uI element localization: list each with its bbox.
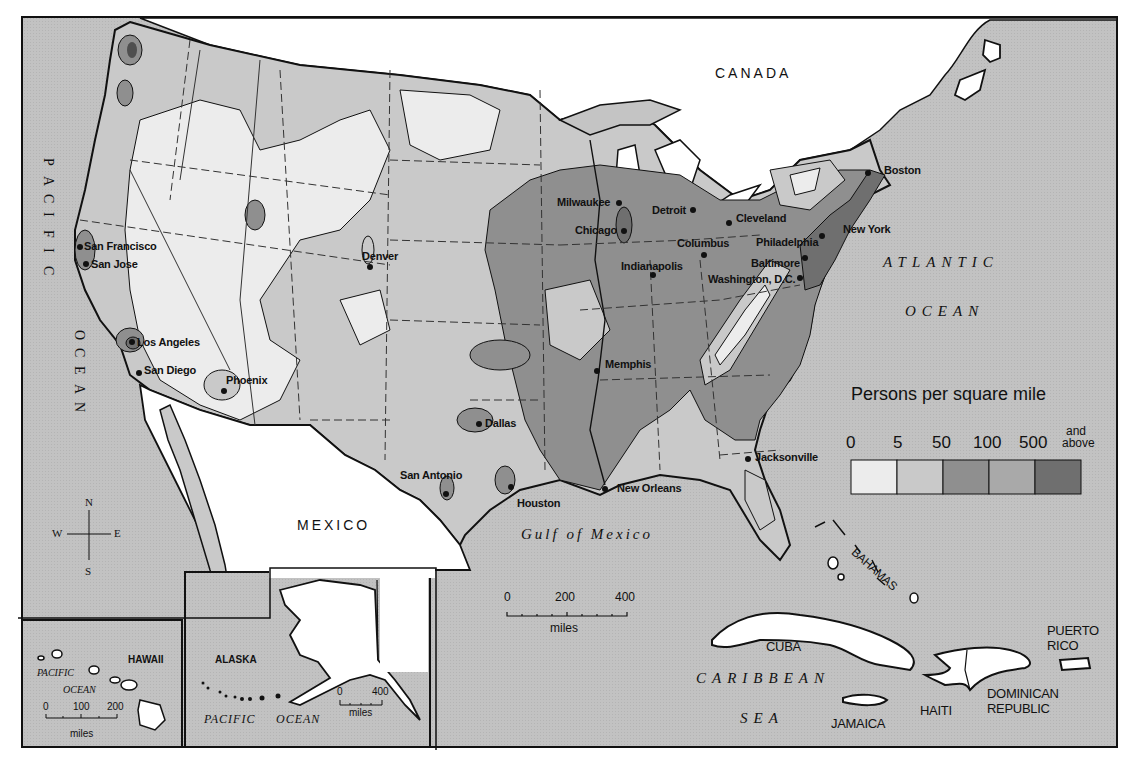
legend-break-0: 0 (846, 433, 855, 453)
density-500-chicago (616, 207, 632, 243)
city-label-los-angeles: Los Angeles (137, 336, 200, 348)
city-label-cleveland: Cleveland (736, 212, 786, 224)
country-label-cuba: CUBA (766, 639, 801, 654)
legend-break-50: 50 (932, 433, 951, 453)
density-500-seattle (127, 42, 137, 58)
city-label-denver: Denver (362, 250, 398, 262)
city-label-jacksonville: Jacksonville (755, 451, 818, 463)
water-label-atlantic: ATLANTIC (883, 254, 999, 271)
scale-label-400: 400 (615, 590, 635, 604)
city-label-san-francisco: San Francisco (84, 240, 157, 252)
city-label-washington-dc: Washington, D.C. (708, 273, 795, 285)
dominican-line2: REPUBLIC (987, 701, 1059, 716)
inset-alaska-pacific: PACIFIC (204, 712, 255, 727)
country-label-haiti: HAITI (920, 703, 952, 718)
country-label-dominican-republic: DOMINICAN REPUBLIC (987, 686, 1059, 716)
legend-title: Persons per square mile (851, 384, 1046, 405)
dominican-line1: DOMINICAN (987, 686, 1059, 701)
legend-break-5: 5 (893, 433, 902, 453)
inset-hawaii-title: HAWAII (128, 654, 164, 665)
inset-hawaii-ocean: OCEAN (63, 684, 96, 695)
compass-s: S (85, 565, 91, 577)
city-label-new-orleans: New Orleans (617, 482, 681, 494)
legend-swatches (851, 460, 1081, 494)
compass-e: E (114, 527, 121, 539)
country-label-jamaica: JAMAICA (831, 716, 885, 731)
water-label-sea: SEA (740, 710, 784, 727)
compass-n: N (85, 496, 93, 508)
water-label-caribbean: CARIBBEAN (696, 670, 830, 687)
inset-alaska-title: ALASKA (215, 654, 257, 665)
city-label-new-york: New York (843, 223, 891, 235)
city-label-chicago: Chicago (575, 224, 617, 236)
city-label-phoenix: Phoenix (226, 374, 267, 386)
legend-break-100: 100 (973, 433, 1001, 453)
city-label-dallas: Dallas (485, 417, 516, 429)
puerto-line2: RICO (1047, 638, 1099, 653)
compass-w: W (52, 527, 62, 539)
city-label-memphis: Memphis (605, 358, 651, 370)
inset-alaska-miles: miles (349, 707, 372, 718)
jamaica-land (843, 695, 887, 705)
inset-hawaii-miles: miles (70, 728, 93, 739)
city-label-philadelphia: Philadelphia (756, 236, 818, 248)
city-label-houston: Houston (517, 497, 560, 509)
city-label-milwaukee: Milwaukee (557, 196, 610, 208)
puerto-rico-land (1060, 658, 1090, 670)
water-label-atlantic-ocean: OCEAN (905, 303, 984, 320)
country-label-puerto-rico: PUERTO RICO (1047, 623, 1099, 653)
canada-inset (380, 572, 428, 672)
city-label-boston: Boston (884, 164, 921, 176)
water-label-pacific: PACIFIC (39, 158, 57, 284)
city-label-baltimore: Baltimore (751, 257, 800, 269)
water-label-gulf-of-mexico: Gulf of Mexico (521, 526, 653, 543)
city-label-san-antonio: San Antonio (400, 469, 462, 481)
puerto-line1: PUERTO (1047, 623, 1099, 638)
scale-label-200: 200 (555, 590, 575, 604)
inset-alaska-ocean: OCEAN (276, 712, 320, 727)
city-label-columbus: Columbus (677, 237, 729, 249)
inset-hawaii-scale-0: 0 (43, 701, 49, 712)
inset-hawaii-scale-100: 100 (73, 701, 90, 712)
canada-island-1 (983, 40, 1000, 62)
inset-alaska-scale-400: 400 (372, 686, 389, 697)
legend-and-above: and above (1062, 425, 1095, 449)
city-label-san-diego: San Diego (144, 364, 196, 376)
city-label-san-jose: San Jose (91, 258, 138, 270)
scale-label-0: 0 (504, 590, 511, 604)
country-label-canada: CANADA (715, 65, 791, 81)
country-label-mexico: MEXICO (297, 517, 370, 533)
legend-above: above (1062, 437, 1095, 449)
legend-break-500: 500 (1019, 433, 1047, 453)
city-label-detroit: Detroit (652, 204, 686, 216)
inset-hawaii-scale-200: 200 (107, 701, 124, 712)
water-label-ocean-west: OCEAN (70, 330, 88, 420)
scale-unit-miles: miles (550, 621, 578, 635)
inset-hawaii-pacific: PACIFIC (37, 667, 74, 678)
density-500-ks (470, 340, 530, 370)
density-100-portland (117, 80, 133, 106)
inset-alaska-scale-0: 0 (337, 686, 343, 697)
city-label-indianapolis: Indianapolis (621, 260, 683, 272)
